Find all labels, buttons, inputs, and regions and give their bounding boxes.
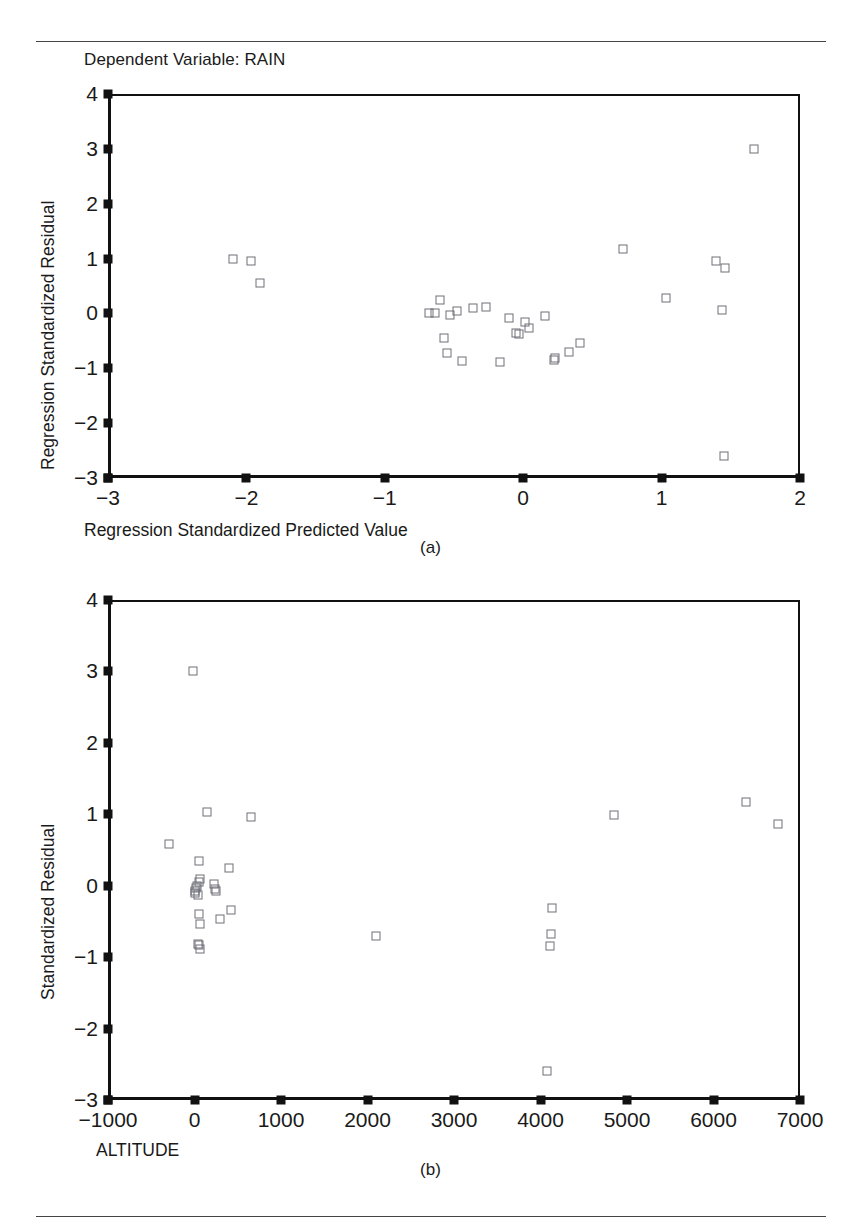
x-tick-mark <box>657 474 666 483</box>
scatter-point <box>546 929 555 938</box>
x-tick-mark <box>536 1096 545 1105</box>
x-tick-label: 6000 <box>690 1108 737 1132</box>
scatter-point <box>719 452 728 461</box>
x-tick-mark <box>450 1096 459 1105</box>
scatter-point <box>436 295 445 304</box>
scatter-point <box>661 294 670 303</box>
x-tick-mark <box>277 1096 286 1105</box>
x-tick-label: 7000 <box>777 1108 824 1132</box>
panel-b-caption: (b) <box>0 1160 861 1180</box>
y-tick-label: 4 <box>86 588 106 612</box>
chart-b-plot-area <box>108 600 800 1100</box>
figure-page: Dependent Variable: RAIN −3−2−101234−3−2… <box>0 0 861 1232</box>
scatter-point <box>443 348 452 357</box>
x-tick-mark <box>190 1096 199 1105</box>
scatter-point <box>256 278 265 287</box>
scatter-point <box>542 1067 551 1076</box>
scatter-point <box>194 856 203 865</box>
scatter-point <box>372 931 381 940</box>
scatter-point <box>515 330 524 339</box>
x-tick-mark <box>380 474 389 483</box>
scatter-point <box>774 819 783 828</box>
x-tick-label: 1000 <box>258 1108 305 1132</box>
x-tick-mark <box>623 1096 632 1105</box>
scatter-point <box>430 309 439 318</box>
y-tick-label: 2 <box>86 731 106 755</box>
x-tick-label: 4000 <box>517 1108 564 1132</box>
chart-b-yaxis-title: Standardized Residual <box>38 824 59 1000</box>
x-tick-label: −1000 <box>79 1108 138 1132</box>
scatter-point <box>226 906 235 915</box>
y-tick-label: −2 <box>74 1017 106 1041</box>
scatter-point <box>203 808 212 817</box>
x-tick-label: 2 <box>794 486 806 510</box>
x-tick-label: 2000 <box>344 1108 391 1132</box>
scatter-point <box>212 886 221 895</box>
scatter-point <box>194 910 203 919</box>
scatter-point <box>188 667 197 676</box>
scatter-point <box>551 354 560 363</box>
scatter-point <box>225 863 234 872</box>
x-tick-mark <box>796 474 805 483</box>
chart-a-yaxis-title: Regression Standardized Residual <box>38 201 59 470</box>
scatter-point <box>452 306 461 315</box>
scatter-point <box>564 347 573 356</box>
scatter-point <box>440 333 449 342</box>
x-tick-label: −3 <box>96 486 120 510</box>
scatter-point <box>193 891 202 900</box>
y-tick-label: −1 <box>74 356 106 380</box>
x-tick-mark <box>796 1096 805 1105</box>
chart-a-title: Dependent Variable: RAIN <box>84 50 285 70</box>
y-tick-label: 0 <box>86 301 106 325</box>
scatter-point <box>750 145 759 154</box>
chart-b-xaxis-title: ALTITUDE <box>96 1140 179 1161</box>
scatter-point <box>458 357 467 366</box>
scatter-point <box>524 323 533 332</box>
x-tick-label: 0 <box>517 486 529 510</box>
scatter-point <box>164 839 173 848</box>
scatter-point <box>610 811 619 820</box>
x-tick-label: 3000 <box>431 1108 478 1132</box>
x-tick-label: 0 <box>189 1108 201 1132</box>
scatter-point <box>469 304 478 313</box>
scatter-point <box>721 263 730 272</box>
scatter-point <box>546 941 555 950</box>
y-tick-label: 0 <box>86 874 106 898</box>
x-tick-mark <box>709 1096 718 1105</box>
chart-a-plot-area <box>108 94 800 478</box>
scatter-point <box>195 944 204 953</box>
bottom-divider-rule <box>36 1216 826 1217</box>
scatter-point <box>547 903 556 912</box>
scatter-point <box>575 339 584 348</box>
x-tick-label: −1 <box>373 486 397 510</box>
scatter-point <box>741 798 750 807</box>
x-tick-mark <box>242 474 251 483</box>
scatter-point <box>481 303 490 312</box>
scatter-point <box>246 813 255 822</box>
y-tick-label: −2 <box>74 411 106 435</box>
x-tick-label: 1 <box>656 486 668 510</box>
panel-a-caption: (a) <box>0 538 861 558</box>
y-tick-label: 1 <box>86 247 106 271</box>
scatter-point <box>216 914 225 923</box>
scatter-point <box>541 312 550 321</box>
y-tick-label: 3 <box>86 137 106 161</box>
x-tick-label: −2 <box>234 486 258 510</box>
y-tick-label: 2 <box>86 192 106 216</box>
x-tick-mark <box>104 474 113 483</box>
x-tick-mark <box>519 474 528 483</box>
x-tick-label: 5000 <box>604 1108 651 1132</box>
x-tick-mark <box>363 1096 372 1105</box>
scatter-point <box>195 920 204 929</box>
y-tick-label: 1 <box>86 802 106 826</box>
scatter-point <box>711 256 720 265</box>
x-tick-mark <box>104 1096 113 1105</box>
scatter-point <box>495 357 504 366</box>
scatter-point <box>505 313 514 322</box>
top-divider-rule <box>36 41 826 42</box>
scatter-point <box>246 257 255 266</box>
scatter-point <box>618 245 627 254</box>
scatter-point <box>228 254 237 263</box>
y-tick-label: 4 <box>86 82 106 106</box>
y-tick-label: −1 <box>74 945 106 969</box>
